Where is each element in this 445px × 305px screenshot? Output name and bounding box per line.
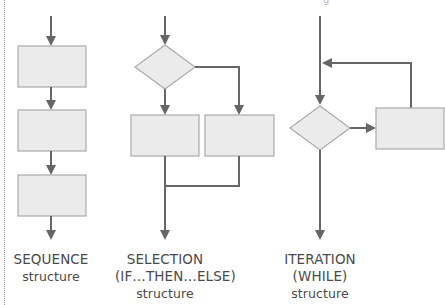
iteration-condition: (WHILE): [270, 268, 370, 285]
iteration-body-box: [376, 108, 444, 149]
sequence-structure: [18, 16, 86, 238]
selection-structure: [131, 16, 274, 238]
iteration-decision-diamond: [290, 106, 350, 150]
sequence-box-2: [18, 110, 86, 151]
selection-else-box: [205, 115, 274, 156]
iteration-caption: ITERATION (WHILE) structure: [270, 251, 370, 302]
sequence-box-1: [18, 46, 86, 87]
selection-title: SELECTION: [115, 251, 215, 268]
selection-decision-diamond: [135, 45, 195, 89]
iteration-subtitle: structure: [270, 285, 370, 302]
iteration-title: ITERATION: [270, 251, 370, 268]
sequence-title: SEQUENCE: [6, 251, 96, 268]
sequence-box-3: [18, 175, 86, 216]
sequence-caption: SEQUENCE structure: [6, 251, 96, 285]
sequence-subtitle: structure: [6, 268, 96, 285]
selection-then-box: [131, 115, 199, 156]
selection-subtitle: structure: [115, 285, 215, 302]
iteration-loopback-arrow: [324, 63, 411, 108]
selection-merge-line: [165, 156, 239, 186]
iteration-structure: [290, 16, 444, 238]
selection-false-arrow: [195, 67, 239, 113]
selection-caption: SELECTION (IF…THEN…ELSE) structure: [115, 251, 215, 302]
selection-condition: (IF…THEN…ELSE): [115, 268, 215, 285]
